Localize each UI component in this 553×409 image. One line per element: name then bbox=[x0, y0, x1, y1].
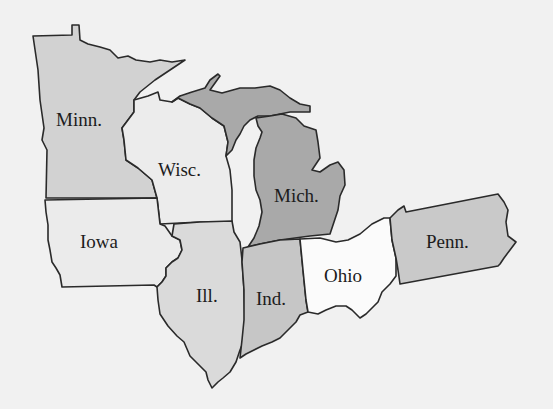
label-michigan: Mich. bbox=[274, 185, 319, 206]
label-ohio: Ohio bbox=[324, 265, 362, 286]
midwest-map: Minn. Wisc. Mich. Iowa Ill. Ind. Ohio Pe… bbox=[0, 0, 553, 409]
label-minnesota: Minn. bbox=[56, 109, 102, 130]
label-indiana: Ind. bbox=[256, 288, 286, 309]
label-iowa: Iowa bbox=[80, 231, 119, 252]
label-illinois: Ill. bbox=[196, 285, 218, 306]
label-pennsylvania: Penn. bbox=[426, 231, 469, 252]
label-wisconsin: Wisc. bbox=[158, 159, 201, 180]
state-michigan-lower[interactable] bbox=[248, 114, 345, 247]
